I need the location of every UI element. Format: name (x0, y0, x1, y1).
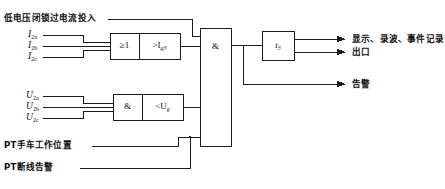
wire-pt-broken-alarm (80, 137, 190, 168)
input-label-i2c: I2c (28, 52, 37, 62)
or-gate-label: ≥1 (110, 41, 139, 50)
arrowhead-trip (337, 48, 345, 55)
enable-label: 低电压闭锁过电流投入 (4, 14, 96, 23)
input-label-u2a: U2a (26, 91, 39, 101)
protection-logic-diagram (0, 0, 445, 189)
pt-truck-position-label: PT手车工作位置 (4, 141, 72, 150)
pt-broken-alarm-label: PT断线告警 (4, 163, 53, 172)
output-label-alarm: 告警 (352, 80, 370, 89)
main-and-gate-label: & (200, 42, 231, 51)
input-label-i2a: I2a (28, 30, 37, 40)
wire-i2a (43, 35, 110, 42)
wire-u2a (43, 96, 113, 103)
wire-junction-dot (188, 135, 191, 138)
output-label-trip: 出口 (352, 48, 370, 57)
arrowhead-alarm (337, 80, 345, 87)
wire-u2c (43, 111, 113, 118)
voltage-and-gate-label: & (113, 102, 142, 111)
wire-pt-truck-position (92, 137, 200, 146)
overcurrent-label: >Ig3 (139, 41, 180, 50)
arrowhead-display (337, 35, 345, 42)
wire-i2c (43, 50, 110, 57)
input-label-u2c: U2c (26, 113, 39, 123)
undervoltage-label: <Ug (142, 102, 183, 111)
input-label-i2b: I2b (28, 41, 37, 51)
output-label-display: 显示、录波、事件记录 (352, 35, 444, 44)
timer-label: t3 (262, 41, 294, 50)
input-label-u2b: U2b (26, 102, 39, 112)
